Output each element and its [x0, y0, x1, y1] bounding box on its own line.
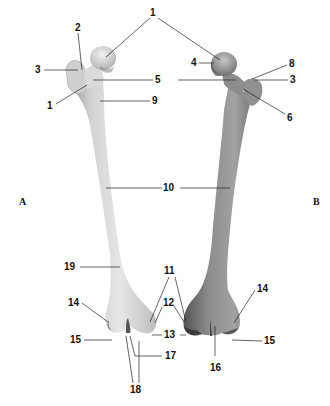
panel-label-b: B — [313, 197, 320, 207]
label-1-left: 1 — [47, 101, 53, 111]
label-12: 12 — [163, 298, 174, 308]
label-11: 11 — [164, 266, 175, 276]
label-13: 13 — [164, 330, 175, 340]
femur-b — [183, 52, 262, 336]
label-2: 2 — [75, 23, 81, 33]
femur-a-head — [90, 46, 116, 70]
label-5: 5 — [155, 75, 161, 85]
label-17: 17 — [165, 351, 176, 361]
label-9: 9 — [152, 96, 158, 106]
label-6: 6 — [287, 113, 293, 123]
label-15-left: 15 — [70, 335, 81, 345]
label-14-right: 14 — [257, 284, 268, 294]
label-8: 8 — [289, 59, 295, 69]
femur-a — [66, 46, 156, 333]
femur-a-shaft — [68, 68, 157, 333]
femur-figure — [0, 0, 330, 406]
femur-b-shaft — [183, 80, 256, 335]
label-16: 16 — [210, 363, 221, 373]
label-14-left: 14 — [68, 298, 79, 308]
label-15-right: 15 — [264, 336, 275, 346]
label-3-left: 3 — [35, 65, 41, 75]
femur-a-greater-trochanter — [66, 60, 87, 93]
label-1-head: 1 — [150, 8, 156, 18]
label-18: 18 — [130, 385, 141, 395]
label-4: 4 — [191, 58, 197, 68]
label-10: 10 — [163, 183, 174, 193]
panel-label-a: A — [19, 197, 26, 207]
label-3-right: 3 — [290, 75, 296, 85]
label-19: 19 — [64, 262, 75, 272]
